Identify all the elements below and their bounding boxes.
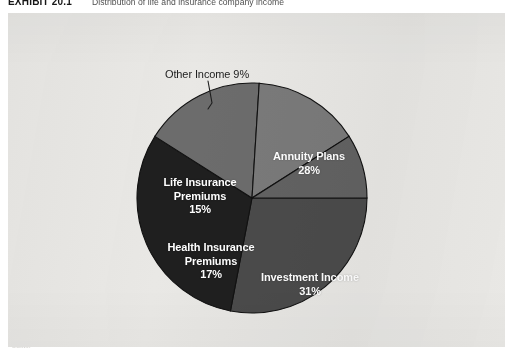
pie-chart: Annuity Plans 28% Investment Income 31% … <box>8 13 505 347</box>
slice-label-health-insurance-premiums: Health Insurance Premiums 17% <box>158 228 264 295</box>
slice-label-life-insurance-premiums: Life Insurance Premiums 15% <box>146 163 254 230</box>
exhibit-header: EXHIBIT 20.1 Distribution of life and in… <box>0 0 513 10</box>
slice-label-annuity-plans: Annuity Plans 28% <box>248 137 370 191</box>
exhibit-title: Distribution of life and insurance compa… <box>92 0 284 7</box>
slice-label-other-income-value: 9% <box>233 68 249 80</box>
chart-panel: Annuity Plans 28% Investment Income 31% … <box>8 13 505 347</box>
slice-label-annuity-plans-value: 28% <box>248 164 370 177</box>
scanned-page: purpose of protecting against the financ… <box>0 0 513 354</box>
slice-label-life-insurance-premiums-text: Life Insurance Premiums <box>163 176 236 201</box>
slice-label-health-insurance-premiums-value: 17% <box>158 268 264 281</box>
slice-label-life-insurance-premiums-value: 15% <box>146 203 254 216</box>
exhibit-number: EXHIBIT 20.1 <box>8 0 72 7</box>
slice-label-health-insurance-premiums-text: Health Insurance Premiums <box>167 241 254 266</box>
slice-label-annuity-plans-text: Annuity Plans <box>273 150 345 162</box>
slice-label-other-income: Other Income 9% <box>152 68 262 81</box>
slice-label-investment-income-text: Investment Income <box>261 271 359 283</box>
slice-label-other-income-text: Other Income <box>165 68 230 80</box>
